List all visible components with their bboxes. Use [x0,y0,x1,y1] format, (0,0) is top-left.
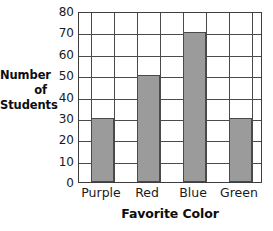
x-axis-tick-label: Red [135,186,159,200]
bar-blue [183,32,206,182]
bar-chart: Number of Students 80706050403020100 Pur… [0,0,273,231]
x-axis-tick-label: Green [220,186,258,200]
x-axis-tick-label: Blue [179,186,207,200]
y-axis-tick-label: 40 [48,92,74,104]
bar-red [137,75,160,182]
bars-layer [79,13,261,182]
y-axis-tick-label: 10 [48,156,74,168]
x-axis-tick-labels: PurpleRedBlueGreen [78,186,262,202]
y-axis-tick-label: 20 [48,134,74,146]
bar-green [229,118,252,182]
y-axis-tick-label: 30 [48,113,74,125]
plot-area [78,12,262,183]
y-axis-tick-label: 80 [48,6,74,18]
y-axis-tick-label: 60 [48,49,74,61]
y-axis-title-line-3: Students [0,98,47,113]
bar-purple [91,118,114,182]
x-axis-tick-label: Purple [81,186,120,200]
y-axis-title-line-1: Number [0,68,47,83]
y-axis-tick-labels: 80706050403020100 [48,0,74,231]
y-axis-tick-label: 0 [48,177,74,189]
y-axis-tick-label: 70 [48,27,74,39]
y-axis-tick-label: 50 [48,70,74,82]
x-axis-title: Favorite Color [78,207,262,221]
y-axis-title-line-2: of [0,83,47,98]
y-axis-title: Number of Students [0,68,47,113]
